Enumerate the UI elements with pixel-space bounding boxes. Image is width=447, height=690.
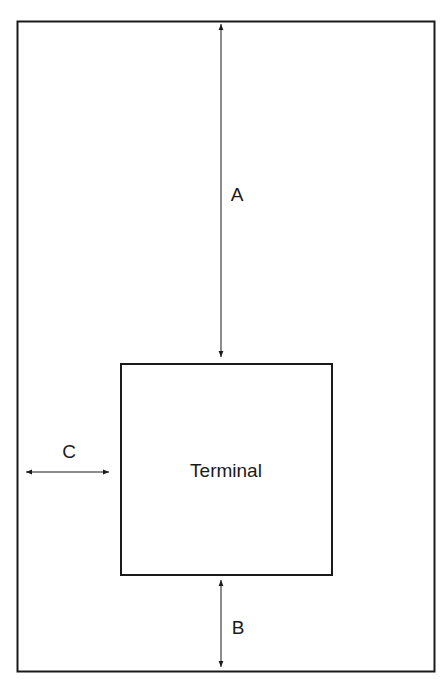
dimension-b-label: B xyxy=(232,618,245,637)
dimension-a-label: A xyxy=(231,185,244,204)
dimension-c-label: C xyxy=(62,442,76,461)
terminal-label: Terminal xyxy=(190,461,262,480)
diagram-canvas xyxy=(0,0,447,690)
